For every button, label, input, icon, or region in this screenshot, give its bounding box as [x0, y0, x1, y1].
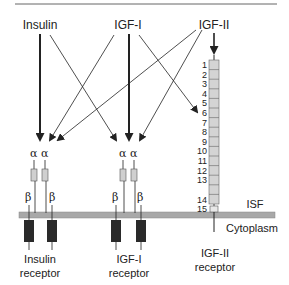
receptor-label-line2: receptor: [18, 266, 62, 280]
kinase-domain-box: [24, 220, 34, 242]
beta-label: β: [49, 192, 55, 204]
igf2-receptor: [209, 60, 219, 232]
domain-number: 6: [195, 109, 207, 118]
domain-number: 8: [195, 128, 207, 137]
domain-number: 3: [195, 80, 207, 89]
receptor-label-line2: receptor: [106, 266, 152, 280]
arrow-igf2-to-igf1-receptor: [140, 30, 202, 140]
domain-number: 10: [195, 147, 207, 156]
domain-15-box: [210, 206, 218, 212]
domain-number: 5: [195, 99, 207, 108]
kinase-domain-box: [136, 220, 146, 242]
igf1-receptor: [111, 160, 146, 250]
alpha-label: α: [30, 148, 37, 160]
insulin-receptor: [24, 160, 57, 250]
kinase-domain-box: [47, 220, 57, 242]
domain-number: 13: [195, 176, 207, 185]
receptor-label-insulin: Insulin receptor: [18, 252, 62, 280]
beta-label: β: [112, 192, 118, 204]
arrow-igf1-to-igf2-receptor: [139, 35, 197, 112]
cytoplasm-label: Cytoplasm: [224, 221, 280, 235]
alpha-subunit-box: [120, 169, 126, 181]
kinase-domain-box: [111, 220, 121, 242]
receptor-label-line1: Insulin: [18, 252, 62, 266]
receptor-label-line1: IGF-II: [192, 246, 238, 260]
beta-label: β: [25, 192, 31, 204]
diagram-canvas: Insulin IGF-I IGF-II α α β β α α β β 1 2…: [0, 0, 289, 285]
receptor-label-igf2: IGF-II receptor: [192, 246, 238, 274]
alpha-subunit-box: [42, 169, 48, 181]
receptor-label-line2: receptor: [192, 260, 238, 274]
receptor-label-igf1: IGF-I receptor: [106, 252, 152, 280]
receptor-label-line1: IGF-I: [106, 252, 152, 266]
alpha-subunit-box: [31, 169, 37, 181]
isf-label: ISF: [240, 197, 270, 211]
ligand-label-igf1: IGF-I: [108, 18, 148, 32]
beta-label: β: [137, 192, 143, 204]
ligand-label-igf2: IGF-II: [194, 18, 234, 32]
alpha-label: α: [41, 148, 48, 160]
ligand-label-insulin: Insulin: [18, 18, 62, 32]
domain-number: 11: [195, 157, 207, 166]
domain-number: 15: [195, 205, 207, 214]
alpha-label: α: [130, 148, 137, 160]
domain-number: 1: [195, 61, 207, 70]
diagram-svg: [0, 0, 289, 285]
alpha-label: α: [119, 148, 126, 160]
arrow-igf2-to-insulin-receptor: [58, 30, 196, 140]
cell-membrane: [19, 212, 275, 218]
alpha-subunit-box: [131, 169, 137, 181]
